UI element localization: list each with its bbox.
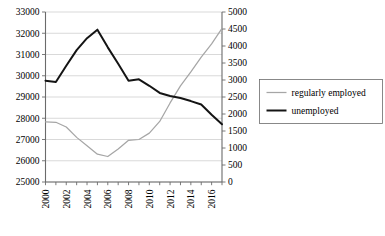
x-axis-tick-label: 2008 (124, 189, 134, 208)
left-axis-tick-label: 30000 (16, 71, 40, 81)
x-axis-tick-label: 2006 (103, 189, 113, 208)
left-axis-tick-label: 28000 (16, 114, 40, 124)
right-axis-tick-label: 2000 (228, 109, 247, 119)
x-axis-tick-label: 2014 (186, 189, 196, 208)
right-axis-tick-label: 3500 (228, 58, 247, 68)
chart-container: 3300032000310003000029000280002700026000… (0, 0, 385, 236)
left-axis-tick-label: 27000 (16, 135, 40, 145)
x-axis-tick-label: 2012 (166, 189, 176, 208)
left-axis-tick-label: 25000 (16, 177, 40, 187)
left-axis-ticks-group: 3300032000310003000029000280002700026000… (16, 7, 46, 187)
right-axis-tick-label: 4000 (228, 41, 247, 51)
right-axis-tick-label: 1500 (228, 126, 247, 136)
x-axis-tick-label: 2010 (145, 189, 155, 208)
dual-axis-line-chart: 3300032000310003000029000280002700026000… (0, 0, 385, 236)
series-group (46, 28, 223, 156)
x-axis-tick-label: 2016 (207, 189, 217, 208)
legend-label-regularly-employed: regularly employed (292, 88, 366, 98)
legend-label-unemployed: unemployed (292, 106, 339, 116)
left-axis-tick-label: 31000 (16, 50, 40, 60)
legend-box (260, 80, 383, 124)
chart-legend: regularly employedunemployed (260, 80, 383, 124)
right-axis-tick-label: 0 (228, 177, 233, 187)
left-axis-tick-label: 33000 (16, 7, 40, 17)
gridlines-group (46, 12, 223, 182)
x-axis-ticks-group: 200020022004200620082010201220142016 (41, 182, 222, 209)
right-axis-tick-label: 5000 (228, 7, 247, 17)
x-axis-tick-label: 2004 (83, 189, 93, 208)
series-line-regularly-employed (46, 28, 223, 156)
series-line-unemployed (46, 30, 223, 125)
x-axis-tick-label: 2000 (41, 189, 51, 208)
left-axis-tick-label: 29000 (16, 92, 40, 102)
right-axis-tick-label: 3000 (228, 75, 247, 85)
right-axis-tick-label: 500 (228, 160, 243, 170)
left-axis-tick-label: 26000 (16, 156, 40, 166)
right-axis-tick-label: 2500 (228, 92, 247, 102)
right-axis-ticks-group: 5000450040003500300025002000150010005000 (222, 7, 247, 187)
right-axis-tick-label: 4500 (228, 24, 247, 34)
left-axis-tick-label: 32000 (16, 29, 40, 39)
right-axis-tick-label: 1000 (228, 143, 247, 153)
x-axis-tick-label: 2002 (62, 189, 72, 208)
